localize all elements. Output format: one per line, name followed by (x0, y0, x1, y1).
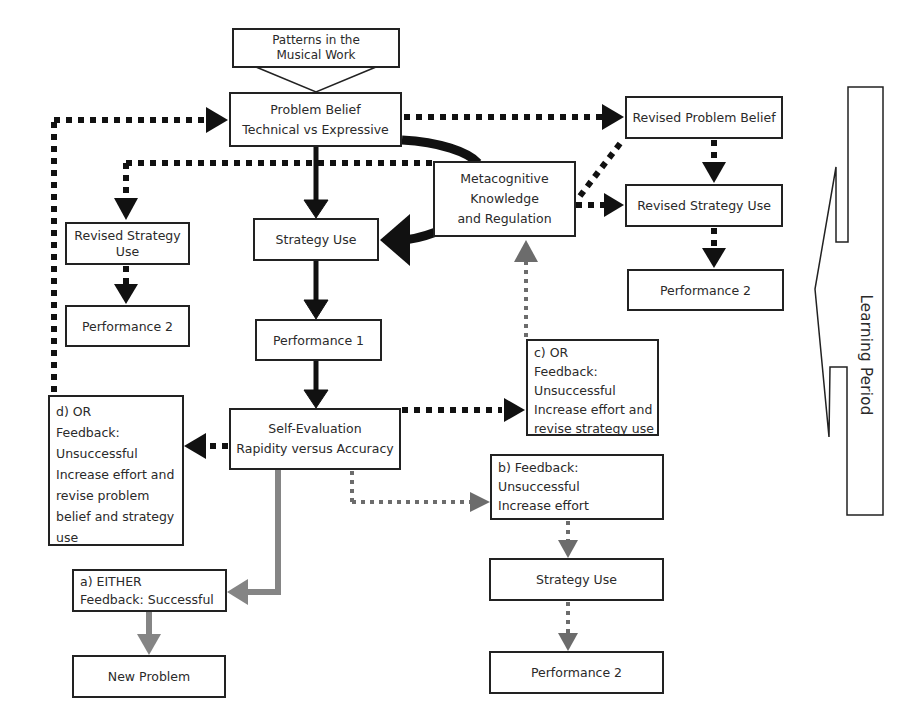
node-performance-2-bottom: Performance 2 (489, 651, 664, 694)
node-patterns-in-musical-work: Patterns in the Musical Work (232, 28, 400, 68)
node-text: Rapidity versus Accuracy (236, 439, 393, 459)
diagram-canvas: Patterns in the Musical Work Problem Bel… (0, 0, 921, 726)
node-self-evaluation: Self-Evaluation Rapidity versus Accuracy (229, 408, 401, 470)
node-feedback-b: b) Feedback: Unsuccessful Increase effor… (490, 454, 664, 520)
node-problem-belief: Problem Belief Technical vs Expressive (229, 92, 402, 147)
node-text: Technical vs Expressive (242, 120, 389, 140)
node-text: Unsuccessful (498, 477, 662, 496)
node-text: revise strategy use (534, 419, 657, 438)
node-revised-problem-belief: Revised Problem Belief (625, 96, 783, 139)
node-text: Increase effort (498, 496, 662, 515)
node-text: revise problem (56, 485, 182, 506)
node-text: Knowledge (470, 189, 539, 209)
node-text: Self-Evaluation (268, 419, 361, 439)
node-text: Feedback: Successful (80, 591, 225, 609)
node-text: Problem Belief (270, 100, 360, 120)
node-text: a) EITHER (80, 573, 225, 591)
node-text: Unsuccessful (56, 443, 182, 464)
node-revised-strategy-use-right: Revised Strategy Use (625, 184, 783, 227)
node-feedback-c: c) OR Feedback: Unsuccessful Increase ef… (526, 339, 659, 436)
node-text: Performance 1 (273, 332, 364, 349)
node-text: b) Feedback: (498, 458, 662, 477)
node-text: Feedback: (56, 422, 182, 443)
node-strategy-use-bottom: Strategy Use (489, 558, 664, 601)
node-text: Unsuccessful (534, 381, 657, 400)
node-text: New Problem (108, 668, 190, 685)
node-text: Patterns in the (272, 33, 360, 48)
node-text: c) OR (534, 343, 657, 362)
node-text: Performance 2 (531, 664, 622, 681)
node-text: Strategy Use (276, 231, 357, 248)
node-new-problem: New Problem (72, 655, 226, 698)
learning-period-text: Learning Period (857, 294, 875, 415)
node-text: use (56, 527, 182, 548)
node-text: Metacognitive (460, 169, 548, 189)
node-text: Musical Work (276, 48, 355, 63)
node-performance-2-right: Performance 2 (627, 269, 784, 311)
node-revised-strategy-use-left: Revised Strategy Use (65, 222, 190, 265)
node-text: Feedback: (534, 362, 657, 381)
node-metacognitive-knowledge: Metacognitive Knowledge and Regulation (433, 161, 576, 237)
node-text: Increase effort and (534, 400, 657, 419)
node-text: Performance 2 (82, 318, 173, 335)
node-text: belief and strategy (56, 506, 182, 527)
node-text: Revised Problem Belief (632, 109, 775, 126)
node-text: Increase effort and (56, 464, 182, 485)
node-performance-1: Performance 1 (255, 319, 382, 361)
node-strategy-use: Strategy Use (253, 218, 379, 261)
open-block-arrow-patterns (256, 67, 376, 92)
node-text: Strategy Use (536, 571, 617, 588)
node-feedback-d: d) OR Feedback: Unsuccessful Increase ef… (48, 395, 184, 546)
node-text: and Regulation (457, 209, 551, 229)
node-feedback-a: a) EITHER Feedback: Successful (72, 569, 227, 612)
learning-period-label: Learning Period (852, 290, 880, 420)
node-text: Use (116, 244, 139, 260)
node-text: Revised Strategy (74, 228, 180, 244)
node-text: Revised Strategy Use (637, 197, 771, 214)
main-flow-arrows (304, 147, 328, 408)
node-performance-2-left: Performance 2 (65, 305, 190, 347)
node-text: d) OR (56, 401, 182, 422)
node-text: Performance 2 (660, 282, 751, 299)
